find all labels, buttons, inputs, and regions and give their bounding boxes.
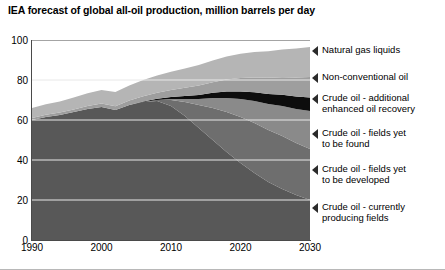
legend-item: Crude oil - fields yet to be found [312,127,406,149]
chart-title: IEA forecast of global all-oil productio… [8,4,315,16]
legend-item-label: Crude oil - additional enhanced oil reco… [322,92,415,114]
plot-area [32,40,310,240]
left-triangle-marker [312,73,318,83]
x-axis-line [31,240,311,241]
left-triangle-marker [312,129,318,139]
legend-item: Crude oil - fields yet to be developed [312,163,406,185]
x-axis: 19902000201020202030 [32,242,318,258]
x-axis-tick-label: 1990 [21,242,43,253]
y-axis: 020406080100 [0,40,28,240]
legend-item: Natural gas liquids [312,44,400,56]
legend-item: Non-conventional oil [312,71,408,83]
y-axis-tick-label: 60 [17,115,28,126]
chart-legend: Natural gas liquidsNon-conventional oilC… [312,36,445,251]
x-axis-tick-label: 2020 [229,242,251,253]
stacked-area-svg [32,40,310,240]
y-axis-tick-label: 80 [17,75,28,86]
legend-item-label: Crude oil - currently producing fields [322,201,405,223]
legend-item: Crude oil - currently producing fields [312,201,405,223]
legend-item-label: Crude oil - fields yet to be found [322,127,406,149]
legend-item-label: Crude oil - fields yet to be developed [322,163,406,185]
x-axis-tick-label: 2000 [90,242,112,253]
legend-item-label: Natural gas liquids [322,44,400,55]
left-triangle-marker [312,94,318,104]
chart-figure: IEA forecast of global all-oil productio… [0,0,445,270]
legend-item: Crude oil - additional enhanced oil reco… [312,92,415,114]
y-axis-tick-label: 40 [17,155,28,166]
legend-item-label: Non-conventional oil [322,71,408,82]
x-axis-tick-label: 2010 [160,242,182,253]
left-triangle-marker [312,203,318,213]
left-triangle-marker [312,165,318,175]
y-axis-tick-label: 20 [17,195,28,206]
y-axis-tick-label: 100 [11,35,28,46]
left-triangle-marker [312,46,318,56]
